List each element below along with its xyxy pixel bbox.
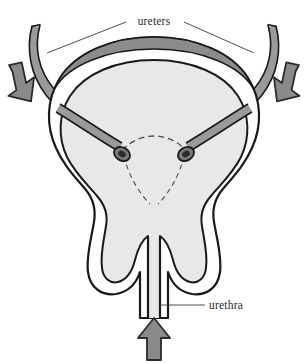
urethra-label: urethra — [209, 299, 243, 311]
urethra-inflow-arrow — [138, 318, 170, 360]
ureters-label: ureters — [138, 15, 171, 27]
bladder-diagram: ureters urethra — [0, 0, 308, 363]
urethra — [148, 236, 160, 318]
urethra-label-group: urethra — [160, 299, 243, 311]
